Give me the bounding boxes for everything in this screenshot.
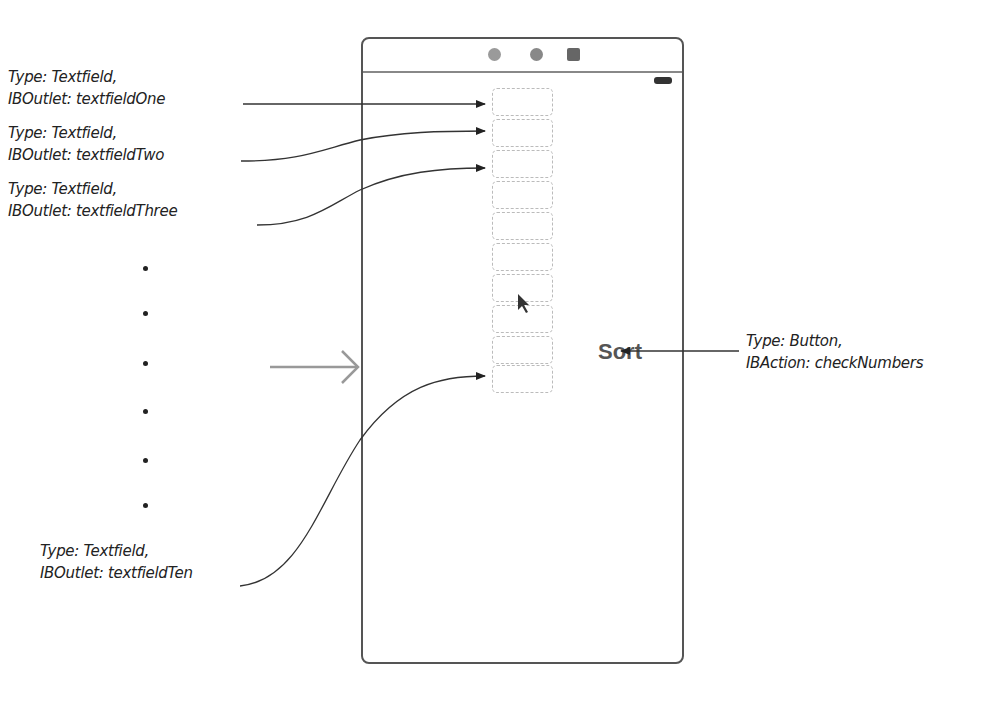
connector-lines [0, 0, 984, 702]
mouse-cursor-icon [518, 294, 529, 313]
initial-view-controller-arrow [270, 351, 358, 383]
